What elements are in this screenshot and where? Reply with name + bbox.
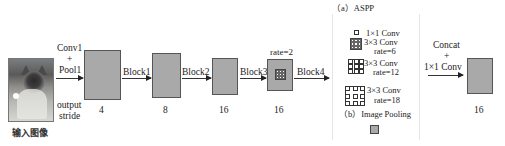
feature-block-stride-4 bbox=[84, 50, 121, 100]
concat-plus-label: + bbox=[444, 51, 449, 61]
arrow-block3 bbox=[240, 78, 266, 79]
dilated-conv-grid-icon bbox=[275, 69, 286, 80]
image-pooling-icon bbox=[370, 125, 379, 134]
input-image bbox=[8, 58, 54, 122]
conv3x3-rate12-icon bbox=[348, 59, 364, 74]
arrow-block1 bbox=[122, 78, 151, 79]
cat-spot bbox=[13, 93, 19, 99]
aspp-branch-rate18-line2: rate=18 bbox=[374, 96, 400, 105]
cat-body bbox=[17, 89, 47, 119]
conv3x3-rate18-icon bbox=[345, 86, 365, 106]
input-image-label: 输入图像 bbox=[12, 126, 48, 139]
arrow-concat bbox=[428, 75, 463, 76]
output-stride-label-1: output bbox=[57, 100, 81, 110]
feature-block-rate-2 bbox=[267, 59, 293, 91]
arrow-block4 bbox=[294, 78, 329, 79]
stride-8: 8 bbox=[163, 105, 168, 115]
plus-label: + bbox=[67, 54, 72, 64]
conv1x1-icon bbox=[354, 30, 359, 35]
aspp-branch-rate12-line2: rate=12 bbox=[373, 68, 399, 77]
output-block bbox=[467, 58, 493, 94]
concat-label: Concat bbox=[433, 40, 460, 50]
aspp-branch-rate6-line2: rate=6 bbox=[374, 47, 396, 56]
stride-4: 4 bbox=[99, 105, 104, 115]
image-pooling-title: （b）Image Pooling bbox=[339, 110, 411, 119]
pool1-label: Pool1 bbox=[59, 65, 81, 75]
stride-16-a: 16 bbox=[219, 105, 229, 115]
aspp-branch-rate18-line1: 3×3 Conv bbox=[367, 86, 401, 95]
conv1-label: Conv1 bbox=[57, 43, 82, 53]
output-stride-label-2: stride bbox=[59, 111, 80, 121]
concat-conv-label: 1×1 Conv bbox=[424, 62, 462, 72]
output-stride-16: 16 bbox=[474, 105, 484, 115]
arrow-block2 bbox=[182, 78, 211, 79]
block4-label: Block4 bbox=[297, 67, 324, 77]
stride-16-b: 16 bbox=[274, 105, 284, 115]
rate-2-label: rate=2 bbox=[270, 48, 293, 57]
arrow-conv1 bbox=[56, 78, 83, 79]
aspp-title: （a）ASPP bbox=[332, 4, 374, 13]
conv3x3-rate6-icon bbox=[350, 38, 362, 50]
feature-block-stride-8 bbox=[152, 53, 181, 98]
feature-block-stride-16-a bbox=[212, 58, 238, 95]
